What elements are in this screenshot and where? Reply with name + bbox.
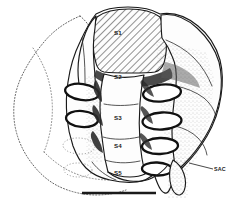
label-s4: S4 bbox=[114, 142, 122, 149]
label-sac: SAC bbox=[214, 166, 226, 172]
median-sacral-body-column bbox=[100, 74, 145, 177]
label-s3: S3 bbox=[114, 114, 122, 121]
s1-body-hatched-region bbox=[93, 9, 166, 73]
sacrum-illustration: S1 S2 S3 S4 S5 SAC bbox=[0, 0, 243, 212]
foramen-right-4 bbox=[142, 162, 172, 176]
sacrum-figure: S1 S2 S3 S4 S5 SAC bbox=[0, 0, 243, 212]
label-s5: S5 bbox=[114, 169, 122, 176]
label-s1: S1 bbox=[114, 29, 122, 36]
right-inferolateral-angle bbox=[168, 158, 188, 198]
callout-labels: SAC bbox=[214, 166, 226, 172]
left-lateral-mass-shading bbox=[86, 76, 103, 162]
sac-leader-line bbox=[189, 163, 213, 169]
label-s2: S2 bbox=[114, 73, 122, 80]
